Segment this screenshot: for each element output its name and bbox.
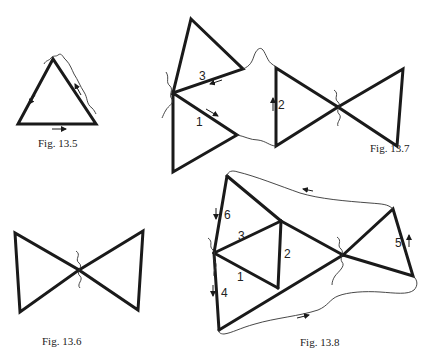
edge-label: 5 [395, 236, 402, 250]
edge-label: 3 [238, 229, 245, 243]
figure-13-8: 6 3 2 1 4 5 Fig. 13.8 [208, 171, 417, 348]
edge-4 [214, 253, 219, 330]
figure-caption: Fig. 13.5 [38, 137, 78, 149]
diagram-canvas: Fig. 13.5 Fig. 13.6 3 2 1 Fig. 13.7 [0, 0, 430, 362]
edge-2 [278, 221, 281, 288]
figure-13-5: Fig. 13.5 [18, 54, 96, 149]
cut-curve [237, 135, 276, 146]
right-triangle [343, 209, 413, 276]
edge-label: 1 [196, 115, 203, 129]
edge-label: 4 [221, 286, 228, 300]
edge-label: 2 [284, 247, 291, 261]
edge-label: 2 [278, 98, 285, 112]
bowtie-right-triangle [79, 231, 143, 310]
figure-13-7: 3 2 1 Fig. 13.7 [162, 19, 410, 172]
figure-caption: Fig. 13.8 [300, 336, 340, 348]
triangle [18, 59, 96, 124]
bowtie-right-triangle [338, 69, 403, 146]
cut-curve [243, 48, 276, 69]
outline-curve [219, 276, 417, 334]
bowtie-left-triangle [276, 68, 338, 146]
edge-1 [214, 253, 278, 288]
arrow-icon [297, 315, 309, 318]
figure-caption: Fig. 13.6 [42, 335, 82, 347]
bottom-triangle [173, 93, 237, 172]
arrow-icon [303, 189, 313, 191]
edge-label: 3 [199, 69, 206, 83]
bowtie-left-triangle [15, 233, 79, 312]
edge-3 [214, 221, 281, 253]
edge-label: 6 [224, 208, 231, 222]
top-triangle [173, 19, 243, 93]
figure-13-6: Fig. 13.6 [15, 231, 143, 347]
edge-label: 1 [237, 270, 244, 284]
figure-caption: Fig. 13.7 [370, 142, 410, 154]
